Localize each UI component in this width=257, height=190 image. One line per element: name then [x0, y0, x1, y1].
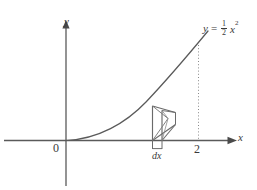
dx-label: dx [152, 151, 161, 161]
origin-label: 0 [53, 142, 59, 154]
slab-cross-section [153, 106, 176, 141]
x-axis-label: x [238, 132, 243, 143]
y-axis-label: y [64, 16, 69, 27]
x-axis [4, 137, 237, 144]
y-axis [62, 20, 69, 186]
curve-equation-label: y = 1 2 x2 [203, 20, 239, 38]
fraction-numerator: 1 [221, 20, 227, 28]
curve-parabola [66, 31, 208, 141]
equation-x-squared: x2 [230, 23, 238, 35]
figure-container: y x 0 2 dx y = 1 2 x2 [0, 0, 257, 190]
dx-bracket [153, 141, 163, 150]
equation-equals-sign: = [211, 23, 217, 34]
equation-variable-y: y [203, 23, 208, 34]
x-tick-label-2: 2 [194, 143, 200, 155]
equation-exponent-2: 2 [235, 19, 239, 27]
fraction-denominator: 2 [221, 28, 227, 37]
equation-fraction-one-half: 1 2 [221, 20, 227, 38]
